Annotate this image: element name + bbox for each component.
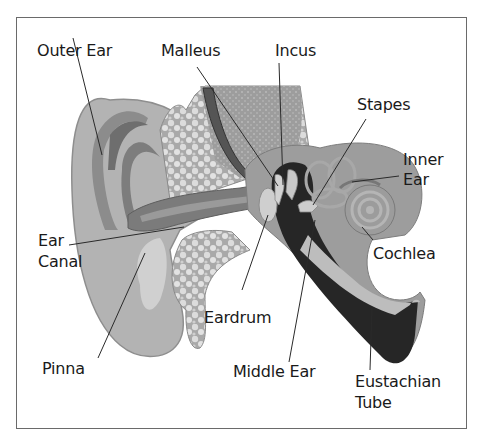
label-inner-ear-line1: Inner [403, 150, 443, 170]
label-ear-canal-line1: Ear [38, 231, 64, 251]
label-outer-ear: Outer Ear [37, 41, 112, 61]
label-middle-ear: Middle Ear [233, 362, 315, 382]
label-eardrum: Eardrum [204, 308, 271, 328]
label-malleus: Malleus [161, 41, 220, 61]
eardrum-shape [259, 188, 277, 222]
label-ear-canal-line2: Canal [38, 252, 82, 272]
label-eustachian-line2: Tube [355, 393, 392, 413]
label-eustachian-line1: Eustachian [355, 372, 441, 392]
label-stapes: Stapes [357, 95, 410, 115]
label-pinna: Pinna [42, 359, 85, 379]
label-incus: Incus [275, 41, 316, 61]
leader-eardrum [242, 215, 268, 290]
label-inner-ear-line2: Ear [403, 170, 429, 190]
label-cochlea: Cochlea [373, 244, 436, 264]
